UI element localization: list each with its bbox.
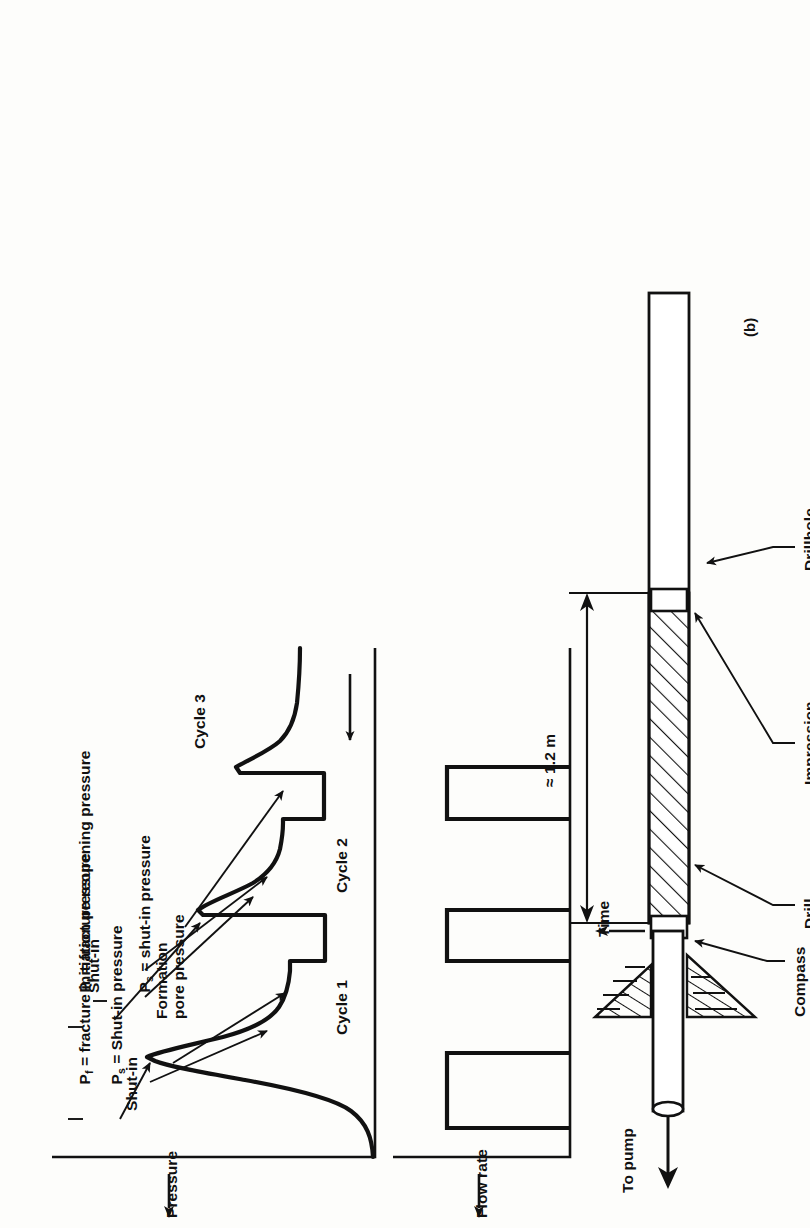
rotated-figure: Pf = fracture initiation pressure Ps = S… xyxy=(0,0,805,1223)
figure-canvas: Pf = fracture initiation pressure Ps = S… xyxy=(0,0,810,1228)
panel-a-graphics xyxy=(0,0,805,1223)
